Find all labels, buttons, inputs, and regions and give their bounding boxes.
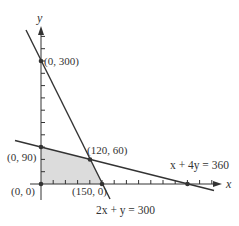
label-0-0: (0, 0) [11,185,35,198]
point-0-0 [39,182,44,187]
equation-x-plus-4y-360: x + 4y = 360 [170,159,229,172]
equation-2x-plus-y-300: 2x + y = 300 [96,204,155,217]
x-axis-arrow-icon [213,181,222,187]
label-150-0: (150, 0) [72,185,107,198]
x-axis-label: x [225,177,232,191]
label-0-90: (0, 90) [7,151,37,164]
label-120-60: (120, 60) [87,144,128,157]
point-120-60 [88,157,93,162]
y-axis-arrow-icon [38,26,44,35]
y-axis-label: y [36,11,43,25]
chart-canvas: y x (0, 300) (0, 90) (120, 60) (0, 0) (1… [0,0,239,226]
point-360-0 [185,182,190,187]
label-0-300: (0, 300) [44,55,79,68]
point-0-90 [39,145,44,150]
point-0-300 [39,59,44,64]
